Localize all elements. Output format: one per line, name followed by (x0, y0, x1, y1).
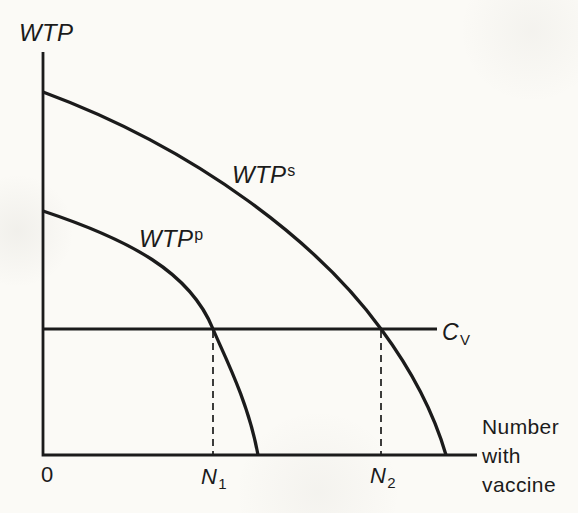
axes-line (43, 52, 477, 455)
x-axis-label: Number with vaccine (482, 412, 559, 499)
x-axis-label-line2: with (482, 441, 559, 470)
n2-label-subscript: 2 (387, 474, 396, 491)
n2-tick-label: N2 (370, 464, 396, 488)
scanned-figure-page: { "colors": { "ink": "#1b1b1b", "paper":… (0, 0, 578, 513)
n1-label-subscript: 1 (218, 475, 227, 492)
cost-line-label: CV (442, 320, 470, 345)
x-axis-label-line1: Number (482, 412, 559, 441)
n1-tick-label: N1 (201, 465, 227, 489)
wtp-private-curve-label: WTPp (139, 226, 203, 252)
x-axis-label-line3: vaccine (482, 470, 559, 499)
cost-label-subscript: V (460, 331, 470, 348)
n2-label-base: N (370, 463, 386, 488)
cost-label-base: C (442, 319, 459, 345)
wtp-social-label-base: WTP (232, 161, 286, 188)
figure-stage: WTP WTPs WTPp CV 0 N1 N2 Number with vac… (0, 0, 578, 513)
wtp-social-curve-label: WTPs (232, 162, 296, 188)
wtp-private-label-superscript: p (194, 226, 203, 243)
n1-label-base: N (201, 464, 217, 489)
wtp-private-label-base: WTP (139, 225, 193, 252)
wtp-social-label-superscript: s (287, 162, 295, 179)
y-axis-label: WTP (19, 20, 73, 46)
origin-tick-label: 0 (41, 463, 54, 487)
